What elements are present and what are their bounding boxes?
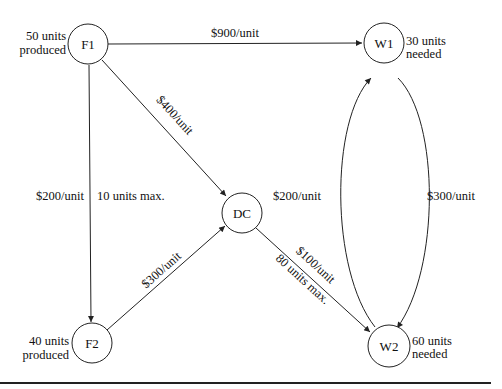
node-dc-label: DC bbox=[233, 206, 251, 221]
node-f2-note-line2: produced bbox=[22, 348, 69, 362]
edge-f1-f2-capacity: 10 units max. bbox=[97, 189, 165, 203]
edge-f2-dc-cost: $300/unit bbox=[139, 249, 185, 292]
node-w2-note-line1: 60 units bbox=[412, 334, 452, 348]
node-w2-note-line2: needed bbox=[412, 347, 448, 361]
node-f2: F2 40 units produced bbox=[22, 323, 112, 363]
edge-f2-dc: $300/unit bbox=[107, 226, 225, 330]
edge-dc-w2: $100/unit 80 units max. bbox=[256, 228, 370, 332]
node-w1-note-line2: needed bbox=[406, 47, 442, 61]
node-f1: F1 50 units produced bbox=[19, 24, 108, 64]
edge-f1-w1: $900/unit bbox=[108, 26, 362, 44]
node-f2-note-line1: 40 units bbox=[29, 334, 69, 348]
edge-f1-dc-cost: $400/unit bbox=[154, 93, 197, 138]
network-diagram: $900/unit $400/unit $200/unit 10 units m… bbox=[0, 0, 502, 389]
edge-w1-w2: $300/unit bbox=[397, 78, 475, 328]
node-w2: W2 60 units needed bbox=[368, 325, 452, 367]
node-dc: DC bbox=[222, 193, 262, 233]
node-w1-label: W1 bbox=[375, 36, 394, 51]
node-f1-note-line1: 50 units bbox=[26, 29, 66, 43]
edge-f1-f2-cost: $200/unit bbox=[36, 189, 84, 203]
node-f1-note-line2: produced bbox=[19, 43, 66, 57]
edge-w2-w1-cost: $200/unit bbox=[273, 189, 321, 203]
node-w1: W1 30 units needed bbox=[364, 23, 446, 63]
node-f1-label: F1 bbox=[81, 37, 95, 52]
node-w2-label: W2 bbox=[380, 339, 399, 354]
node-w1-note-line1: 30 units bbox=[406, 34, 446, 48]
edge-w1-w2-cost: $300/unit bbox=[427, 189, 475, 203]
edge-f1-dc: $400/unit bbox=[102, 60, 226, 196]
edge-f1-w1-cost: $900/unit bbox=[211, 26, 259, 40]
node-f2-label: F2 bbox=[85, 336, 99, 351]
